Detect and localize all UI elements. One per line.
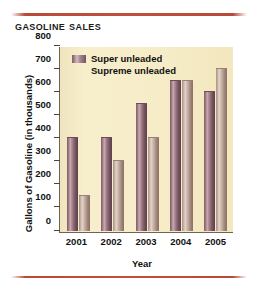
x-axis-tick-label: 2003 (133, 236, 159, 247)
chart-title: Gasoline Sales (15, 19, 101, 33)
y-axis-tick (54, 68, 60, 69)
top-divider-rule (11, 13, 247, 16)
legend-swatch-super (72, 55, 86, 63)
bar-supreme-2001 (79, 195, 90, 231)
x-axis-tick-label: 2005 (203, 236, 229, 247)
y-axis-tick (54, 91, 60, 92)
y-axis-tick (54, 137, 60, 138)
y-axis-tick-label: 0 (46, 214, 51, 225)
bar-super-2004 (170, 80, 181, 231)
x-axis-title: Year (0, 258, 258, 269)
legend-item: Supreme unleaded (72, 65, 176, 76)
y-axis-tick-label: 400 (35, 122, 51, 133)
bar-super-2005 (204, 91, 215, 230)
x-axis-tick-label: 2002 (98, 236, 124, 247)
y-axis-tick-label: 600 (35, 76, 51, 87)
bar-supreme-2004 (182, 80, 193, 231)
bar-super-2001 (67, 137, 78, 230)
y-axis-tick-label: 300 (35, 145, 51, 156)
y-axis-tick-label: 800 (35, 30, 51, 41)
chart-figure: Gasoline Sales Gallons of Gasoline (in t… (0, 0, 258, 290)
y-axis-tick (54, 230, 60, 231)
y-axis-title: Gallons of Gasoline (in thousands) (23, 64, 34, 244)
y-axis-tick-label: 500 (35, 99, 51, 110)
chart-legend: Super unleadedSupreme unleaded (72, 53, 176, 77)
x-axis-tick-label: 2001 (63, 236, 89, 247)
bar-group (204, 47, 227, 231)
legend-label: Supreme unleaded (91, 65, 176, 76)
y-axis-tick (54, 160, 60, 161)
y-axis-tick-label: 700 (35, 53, 51, 64)
bar-super-2003 (136, 103, 147, 231)
legend-item: Super unleaded (72, 53, 176, 64)
bar-supreme-2002 (113, 160, 124, 230)
legend-swatch-supreme (72, 67, 86, 75)
x-axis-tick-labels: 20012002200320042005 (59, 236, 233, 247)
y-axis-tick-label: 100 (35, 191, 51, 202)
y-axis-tick (54, 45, 60, 46)
bar-supreme-2003 (148, 137, 159, 230)
y-axis-tick (54, 183, 60, 184)
y-axis-tick (54, 206, 60, 207)
bar-supreme-2005 (216, 68, 227, 230)
legend-label: Super unleaded (91, 53, 162, 64)
y-axis-tick (54, 114, 60, 115)
bottom-divider-rule (11, 276, 247, 278)
x-axis-tick-label: 2004 (168, 236, 194, 247)
bar-super-2002 (101, 137, 112, 230)
y-axis-tick-label: 200 (35, 168, 51, 179)
